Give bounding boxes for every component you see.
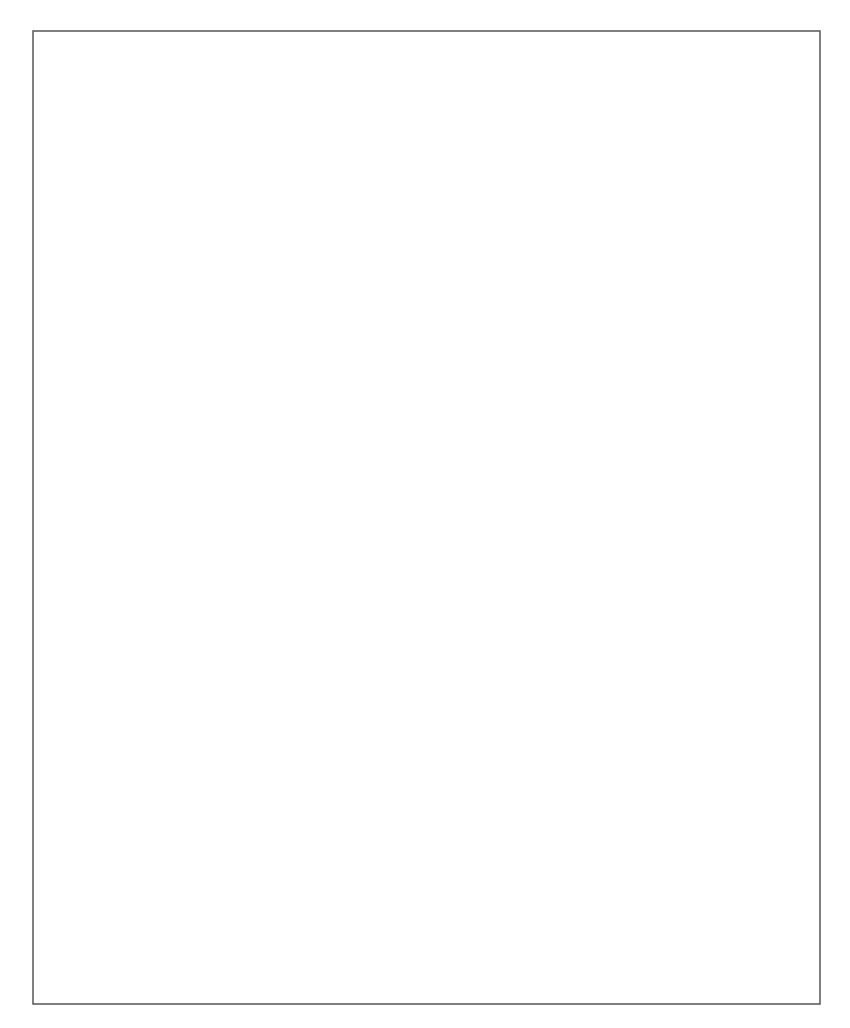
figure-frame [33,31,820,1004]
flowchart-diagram [0,0,850,1028]
